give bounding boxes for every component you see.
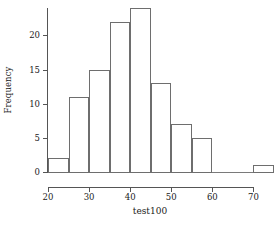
histogram-bar — [171, 124, 192, 173]
histogram-chart: Frequency 05101520 203040506070 test100 — [0, 0, 278, 227]
x-axis-label-text: test100 — [111, 206, 167, 216]
y-axis-tick-label: 10 — [29, 99, 40, 109]
x-axis-tick-label: 20 — [43, 192, 54, 202]
histogram-bar — [192, 138, 213, 173]
x-axis-line — [48, 187, 253, 188]
y-axis-tick-label: 5 — [35, 133, 40, 143]
x-axis-tick-label: 60 — [207, 192, 218, 202]
x-axis-tick-label: 30 — [84, 192, 95, 202]
plot-area — [48, 0, 274, 180]
histogram-bar — [69, 97, 90, 173]
y-axis-tick-label: 15 — [29, 65, 40, 75]
x-axis-tick-label: 50 — [166, 192, 177, 202]
y-axis-tick-label: 0 — [35, 167, 40, 177]
y-axis-tick-labels: 05101520 — [14, 0, 40, 180]
histogram-bar — [130, 8, 151, 173]
x-axis-tick-label: 40 — [125, 192, 136, 202]
x-axis-tick-labels: 203040506070 — [48, 192, 274, 206]
x-axis-tick-label: 70 — [248, 192, 259, 202]
histogram-bar — [151, 83, 172, 173]
histogram-bar — [110, 22, 131, 173]
histogram-bar — [89, 70, 110, 174]
x-axis-label: test100 — [0, 206, 278, 216]
x-axis — [48, 180, 274, 192]
y-axis-label-text: Frequency — [3, 67, 13, 114]
histogram-bar — [48, 158, 69, 173]
y-axis-tick-label: 20 — [29, 30, 40, 40]
histogram-bar — [253, 165, 274, 173]
